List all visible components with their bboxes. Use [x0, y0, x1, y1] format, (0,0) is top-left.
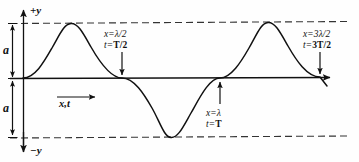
annotation-full-wavelength-line2: t=T [206, 119, 222, 130]
annotation-three-half-wavelength: x=3λ/2 t=3T/2 [303, 29, 331, 50]
wave-diagram-svg [0, 0, 359, 162]
annotation-three-half-wavelength-line2: t=3T/2 [303, 40, 331, 51]
lower-amplitude-label: a [3, 101, 9, 116]
annotation-three-half-wavelength-t-val: 3T/2 [312, 40, 331, 50]
annotation-full-wavelength-line1: x=λ [206, 108, 222, 119]
upper-amplitude-dashed-line [10, 22, 349, 24]
annotation-full-wavelength-x-val: λ [217, 108, 221, 118]
annotation-half-wavelength-x-val: λ/2 [115, 29, 127, 39]
horizontal-axis-label: x,t [59, 98, 70, 109]
annotation-full-wavelength-t-val: T [215, 119, 221, 129]
annotation-half-wavelength-line1: x=λ/2 [104, 29, 127, 40]
y-positive-axis-label: +y [30, 4, 41, 16]
annotation-three-half-wavelength-x-val: 3λ/2 [314, 29, 331, 39]
sine-wave-curve [23, 22, 327, 137]
upper-amplitude-label: a [3, 43, 9, 58]
annotation-half-wavelength-line2: t=T/2 [104, 40, 127, 51]
annotation-half-wavelength: x=λ/2 t=T/2 [104, 29, 127, 50]
annotation-half-wavelength-t-val: T/2 [113, 40, 127, 50]
horizontal-axis-line [10, 78, 330, 79]
y-negative-axis-label: −y [30, 144, 42, 156]
lower-amplitude-dashed-line [10, 136, 349, 138]
annotation-three-half-wavelength-line1: x=3λ/2 [303, 29, 331, 40]
annotation-full-wavelength: x=λ t=T [206, 108, 222, 129]
wave-diagram-figure: +y −y a a x,t x=λ/2 t=T/2 x=λ t=T x=3λ/2… [0, 0, 359, 162]
